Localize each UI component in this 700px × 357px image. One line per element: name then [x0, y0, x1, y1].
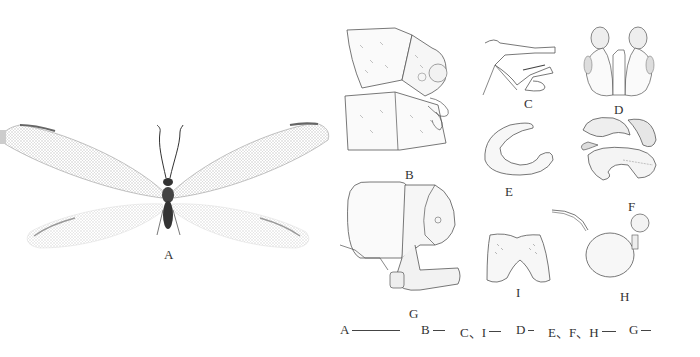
- scale-bar-label: C、I: [460, 322, 486, 341]
- panel-d-genital-ventral: D: [578, 20, 668, 115]
- scale-bar-c-i: C、I: [460, 322, 501, 341]
- scale-bar-label: E、F、H: [548, 322, 599, 341]
- scale-bar-line: [433, 330, 445, 331]
- panel-label-h: H: [620, 290, 629, 303]
- scale-bar-label: G: [629, 322, 638, 338]
- panel-h-spermatheca: H: [550, 205, 690, 310]
- panel-label-c: C: [524, 97, 533, 110]
- scale-bar-line: [528, 330, 534, 331]
- panel-c-sclerite: C: [475, 35, 570, 110]
- scale-bar-a: A: [340, 322, 400, 338]
- scale-bar-g: G: [629, 322, 651, 338]
- scale-bar-e-f-h: E、F、H: [548, 322, 616, 341]
- panel-g-female-terminalia: G: [340, 180, 470, 320]
- sclerite-c-drawing: [475, 35, 570, 110]
- genital-d-drawing: [578, 20, 668, 115]
- scale-bar-line: [489, 331, 501, 332]
- scale-bar-b: B: [421, 322, 445, 338]
- panel-e-sclerite: E: [475, 120, 560, 200]
- scale-bar-label: D: [516, 322, 525, 338]
- panel-f-genital-complex: F: [568, 110, 668, 210]
- panel-label-e: E: [505, 185, 513, 198]
- scale-bar-line: [602, 331, 616, 332]
- panel-label-g: G: [409, 307, 418, 320]
- panel-label-a: A: [164, 248, 173, 261]
- panel-b-male-terminalia: B: [340, 20, 470, 160]
- sclerite-e-drawing: [475, 120, 560, 200]
- male-terminalia-drawing: [340, 20, 470, 160]
- scale-bar-line: [352, 330, 400, 331]
- panel-a-habitus: A: [0, 120, 330, 280]
- scale-bar-d: D: [516, 322, 534, 338]
- scale-bar-label: B: [421, 322, 430, 338]
- female-terminalia-drawing: [340, 180, 470, 320]
- genital-f-drawing: [568, 110, 668, 210]
- panel-label-i: I: [516, 286, 520, 299]
- scale-bar-label: A: [340, 322, 349, 338]
- scale-bar-line: [641, 330, 651, 331]
